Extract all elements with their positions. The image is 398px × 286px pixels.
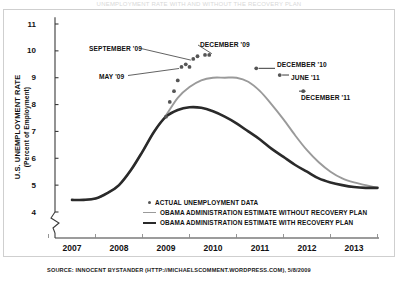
x-tick-2012: 2012: [287, 243, 327, 253]
top-title-fragment: UNEMPLOYMENT RATE WITH AND WITHOUT THE R…: [0, 0, 398, 9]
legend-item-actual: ACTUAL UNEMPLOYMENT DATA: [143, 198, 367, 207]
x-tick-2011: 2011: [240, 243, 280, 253]
y-tick-5: 5: [18, 181, 36, 190]
source-caption: SOURCE: INNOCENT BYSTANDER (HTTP://MICHA…: [47, 267, 311, 273]
legend-dot-marker: [148, 201, 151, 204]
x-tick-2010: 2010: [193, 243, 233, 253]
x-tick-2009: 2009: [146, 243, 186, 253]
y-tick-8: 8: [18, 100, 36, 109]
x-tick-2008: 2008: [99, 243, 139, 253]
y-tick-11: 11: [18, 20, 36, 29]
x-tick-2013: 2013: [334, 243, 374, 253]
legend-line-marker-with: [143, 222, 156, 224]
annotation-june-11: JUNE '11: [291, 74, 320, 81]
annotation-december-10: DECEMBER '10: [277, 61, 327, 68]
legend-item-without-recovery: OBAMA ADMINISTRATION ESTIMATE WITHOUT RE…: [143, 208, 367, 217]
annotation-december-11: DECEMBER '11: [301, 94, 350, 101]
annotation-may-09: MAY '09: [99, 73, 124, 80]
legend: ACTUAL UNEMPLOYMENT DATA OBAMA ADMINISTR…: [143, 198, 367, 228]
y-tick-4: 4: [18, 208, 36, 217]
annotation-september-09: SEPTEMBER '09: [89, 45, 142, 52]
x-tick-2007: 2007: [52, 243, 92, 253]
y-tick-10: 10: [18, 46, 36, 55]
legend-label-with-recovery: OBAMA ADMINISTRATION ESTIMATE WITH RECOV…: [160, 219, 353, 226]
y-tick-6: 6: [18, 154, 36, 163]
annotation-december-09: DECEMBER '09: [200, 41, 250, 48]
legend-label-without-recovery: OBAMA ADMINISTRATION ESTIMATE WITHOUT RE…: [160, 209, 367, 216]
legend-label-actual: ACTUAL UNEMPLOYMENT DATA: [155, 199, 258, 206]
chart-page: UNEMPLOYMENT RATE WITH AND WITHOUT THE R…: [0, 0, 398, 286]
y-tick-7: 7: [18, 127, 36, 136]
legend-item-with-recovery: OBAMA ADMINISTRATION ESTIMATE WITH RECOV…: [143, 218, 367, 227]
legend-line-marker-without: [143, 212, 156, 213]
y-tick-9: 9: [18, 73, 36, 82]
